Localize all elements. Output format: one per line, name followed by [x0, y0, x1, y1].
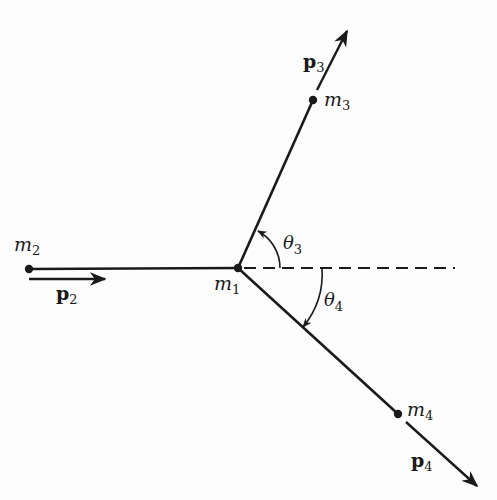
label-m4: m4 [407, 398, 433, 423]
particle-m4-dot [394, 410, 402, 418]
label-m3: m3 [324, 88, 350, 113]
label-m2: m2 [14, 233, 40, 258]
diagram-canvas: m2 p2 m1 p3 m3 θ3 θ4 m4 p4 [0, 0, 497, 500]
decay-diagram: m2 p2 m1 p3 m3 θ3 θ4 m4 p4 [0, 0, 497, 500]
particle-m1-dot [234, 264, 242, 272]
label-theta4: θ4 [324, 289, 343, 314]
line-m1-m4 [238, 268, 398, 414]
particle-m3-dot [309, 96, 317, 104]
label-p2: p2 [56, 282, 78, 307]
theta4-arc-icon [303, 268, 322, 327]
label-p3: p3 [303, 50, 325, 75]
particle-m2-dot [25, 265, 33, 273]
line-m2-m1 [29, 268, 238, 269]
label-theta3: θ3 [283, 232, 302, 257]
label-p4: p4 [411, 449, 433, 474]
theta3-arc-icon [258, 231, 280, 268]
label-m1: m1 [214, 272, 240, 297]
